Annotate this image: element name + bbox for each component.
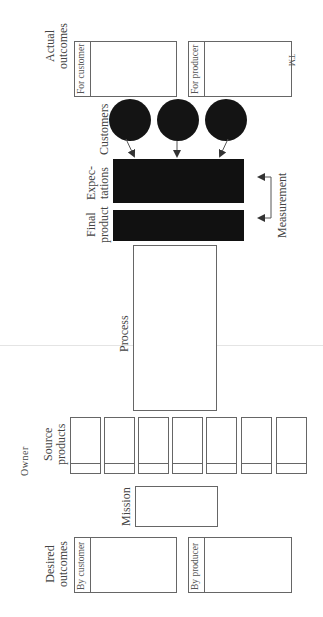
source-product-box-2 [104,417,135,474]
desired-outcomes-label-line2: outcomes [57,541,70,587]
desired-outcomes-label-line1: Desired [44,541,57,587]
owner-letter: n [19,455,30,461]
desired-outcome-by-producer-box: By producer [188,537,292,593]
process-label: Process [118,315,131,352]
source-product-box-6 [241,417,272,474]
mission-label: Mission [120,487,133,526]
owner-letter: O [19,468,30,476]
source-product-box-5 [206,417,237,474]
owner-divider [242,463,271,464]
expectations-label-line1: Expec- [85,166,98,200]
source-product-box-3 [138,417,169,474]
source-products-label-line1: Source [42,424,55,465]
owner-letters: Owner [20,446,31,476]
final-product-label-line2: product [98,206,111,243]
source-product-box-1 [70,417,101,474]
expectations-label-line2: tations [98,166,111,200]
final-product-box [113,210,244,241]
by-customer-label: By customer [77,542,87,590]
owner-letter: w [19,461,30,469]
owner-letter: r [19,446,30,450]
desired-outcomes-label: Desired outcomes [44,541,69,587]
mission-box [135,486,218,527]
desired-outcome-by-customer-box: By customer [74,537,177,593]
owner-letter: e [19,450,30,455]
arrow-icon [220,139,228,156]
expectations-label: Expec- tations [85,166,110,200]
owner-divider [173,463,202,464]
final-product-label-line1: Final [85,206,98,243]
arrow-icon [126,139,134,156]
source-product-box-4 [172,417,203,474]
by-producer-label: By producer [191,543,201,590]
final-product-label: Final product [85,206,110,243]
owner-divider [207,463,236,464]
source-product-box-7 [276,417,307,474]
expectations-box [113,159,244,203]
process-box [133,245,217,411]
source-products-label: Source products [42,424,67,465]
owner-divider [277,463,306,464]
divider [90,538,91,592]
divider [204,538,205,592]
owner-divider [139,463,168,464]
owner-divider [105,463,134,464]
measurement-label: Measurement [276,173,289,238]
owner-divider [71,463,100,464]
source-products-label-line2: products [55,424,68,465]
